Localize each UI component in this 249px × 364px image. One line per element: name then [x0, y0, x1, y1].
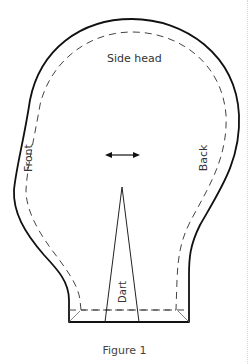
label-side-head: Side head: [107, 53, 162, 64]
label-dart: Dart: [118, 281, 128, 303]
corner-mark-left: [69, 311, 80, 322]
corner-mark-right: [178, 311, 189, 322]
figure-caption: Figure 1: [0, 345, 249, 356]
grainline-arrow-icon: [105, 152, 140, 158]
label-back: Back: [198, 145, 209, 172]
label-front: Front: [23, 144, 34, 172]
